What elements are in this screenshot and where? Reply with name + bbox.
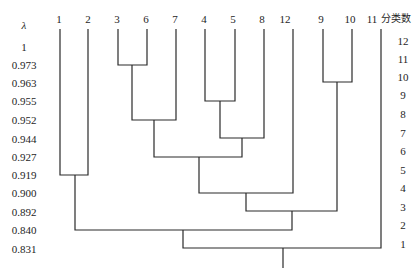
merge-with-12 bbox=[199, 29, 293, 193]
merge-12-rest bbox=[75, 175, 292, 230]
merge-1-2 bbox=[60, 29, 88, 175]
merge-4-5 bbox=[205, 29, 235, 101]
merge-3-6 bbox=[118, 29, 147, 65]
merge-9-10 bbox=[323, 29, 352, 82]
merge-45-8 bbox=[220, 29, 264, 138]
dendrogram-tree bbox=[0, 0, 417, 277]
merge-36-7 bbox=[132, 29, 176, 120]
merge-with-11 bbox=[183, 29, 381, 248]
merge-with-9-10 bbox=[246, 82, 337, 211]
